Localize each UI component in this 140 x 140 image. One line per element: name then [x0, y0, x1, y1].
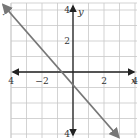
margin-dot: ·: [2, 10, 5, 20]
grid-lines: [11, 3, 137, 138]
tick-labels: 64−224664246: [0, 0, 140, 140]
coordinate-graph: 64−224664246 x y ·: [0, 0, 140, 140]
y-tick-label: 4: [64, 129, 70, 139]
x-axis-label: x: [131, 75, 137, 86]
data-line: [3, 5, 118, 137]
x-tick-label: 2: [101, 76, 107, 86]
y-tick-label: 4: [64, 5, 70, 15]
x-tick-label: −2: [35, 76, 48, 86]
y-tick-label: 2: [64, 36, 70, 46]
graph-line: [3, 5, 118, 137]
x-tick-label: 4: [8, 76, 14, 86]
y-axis-label: y: [77, 6, 84, 17]
